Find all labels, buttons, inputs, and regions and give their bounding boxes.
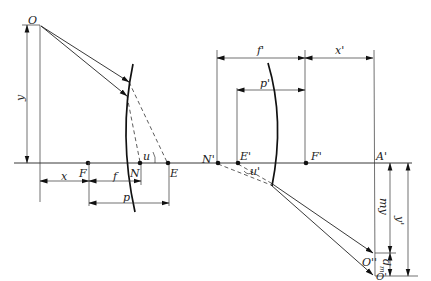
- label-d: d: [380, 259, 393, 266]
- ray-to-O-prime: [271, 185, 373, 275]
- point-F: [86, 161, 91, 166]
- label-x-prime: x': [335, 44, 344, 57]
- label-f-prime: f': [256, 44, 264, 57]
- label-O-prime: O': [376, 271, 387, 281]
- label-E: E: [169, 167, 178, 180]
- label-F: F: [78, 167, 87, 180]
- label-x: x: [61, 170, 68, 183]
- point-E: [166, 161, 171, 166]
- dashed-ray-from-N-prime: [218, 164, 271, 185]
- dashed-ray-to-N: [127, 96, 140, 162]
- label-u: u: [143, 150, 150, 163]
- label-O: O: [28, 14, 37, 27]
- label-y: y: [14, 94, 27, 102]
- optical-diagram: O y F N E u x f p N' E' F' A' u' f' x' p…: [0, 0, 431, 281]
- label-p-prime: p': [260, 77, 270, 90]
- u-angle-arc: [153, 152, 155, 163]
- point-F-prime: [304, 161, 309, 166]
- label-E-prime: E': [239, 150, 251, 163]
- ray-upper-left: [41, 26, 129, 82]
- ray-to-O-double-prime: [271, 183, 373, 253]
- label-N: N: [129, 167, 140, 180]
- ray-lower-left: [41, 26, 127, 96]
- label-O-double-prime: O'': [362, 256, 377, 269]
- label-A-prime: A': [375, 150, 387, 163]
- label-F-prime: F': [310, 150, 322, 163]
- label-p: p: [123, 191, 130, 204]
- label-my: my: [377, 198, 390, 215]
- label-N-prime: N': [201, 153, 215, 166]
- point-N-prime: [216, 161, 221, 166]
- label-y-prime: y': [393, 215, 406, 225]
- label-u-prime: u': [250, 165, 260, 178]
- point-N: [138, 161, 143, 166]
- image-plane-line: [374, 50, 375, 276]
- left-lens: [126, 64, 135, 212]
